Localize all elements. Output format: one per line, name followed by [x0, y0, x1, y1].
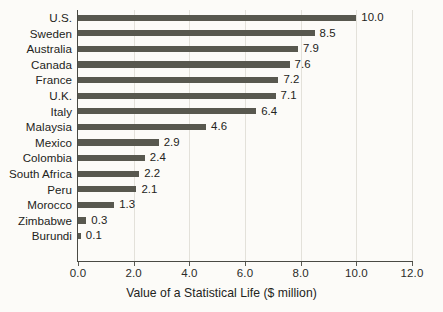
x-axis-title: Value of a Statistical Life ($ million): [0, 286, 443, 300]
x-tick-label: 10.0: [333, 267, 379, 279]
bar-value-label: 7.6: [295, 57, 311, 73]
bar-value-label: 2.9: [164, 135, 180, 151]
x-tick-label: 8.0: [278, 267, 324, 279]
bar: [78, 186, 136, 192]
chart-row: Italy6.4: [0, 104, 443, 120]
x-tick-label: 4.0: [166, 267, 212, 279]
bar: [78, 139, 159, 145]
chart-row: U.K.7.1: [0, 88, 443, 104]
bar-value-label: 7.1: [281, 88, 297, 104]
x-tick-mark: [412, 262, 413, 266]
chart-row: Burundi0.1: [0, 228, 443, 244]
bar-value-label: 6.4: [261, 104, 277, 120]
bar-value-label: 10.0: [361, 10, 383, 26]
x-tick-label: 0.0: [55, 267, 101, 279]
chart-row: Australia7.9: [0, 41, 443, 57]
category-label: Morocco: [0, 197, 72, 213]
x-tick-label: 2.0: [111, 267, 157, 279]
x-tick-label: 12.0: [389, 267, 435, 279]
category-label: Zimbabwe: [0, 213, 72, 229]
category-label: Burundi: [0, 228, 72, 244]
bar-value-label: 7.2: [283, 72, 299, 88]
bar-value-label: 7.9: [303, 41, 319, 57]
bar-chart-figure: U.S.10.0Sweden8.5Australia7.9Canada7.6Fr…: [0, 0, 443, 312]
x-tick-label: 6.0: [222, 267, 268, 279]
chart-row: Zimbabwe0.3: [0, 213, 443, 229]
bar: [78, 30, 315, 36]
category-label: Italy: [0, 104, 72, 120]
chart-row: France7.2: [0, 72, 443, 88]
bar: [78, 233, 81, 239]
category-label: Australia: [0, 41, 72, 57]
bar: [78, 202, 114, 208]
category-label: Canada: [0, 57, 72, 73]
chart-row: Morocco1.3: [0, 197, 443, 213]
category-label: Colombia: [0, 150, 72, 166]
category-label: South Africa: [0, 166, 72, 182]
bar: [78, 155, 145, 161]
x-tick-mark: [189, 262, 190, 266]
chart-row: Mexico2.9: [0, 135, 443, 151]
category-label: Sweden: [0, 26, 72, 42]
x-tick-mark: [134, 262, 135, 266]
category-label: France: [0, 72, 72, 88]
bar: [78, 15, 356, 21]
category-label: U.K.: [0, 88, 72, 104]
bar: [78, 171, 139, 177]
category-label: Peru: [0, 182, 72, 198]
bar: [78, 93, 276, 99]
x-tick-mark: [78, 262, 79, 266]
bar-value-label: 2.1: [141, 182, 157, 198]
x-tick-mark: [245, 262, 246, 266]
bar: [78, 108, 256, 114]
bar-value-label: 4.6: [211, 119, 227, 135]
bar-value-label: 8.5: [320, 26, 336, 42]
bar: [78, 61, 290, 67]
bar-value-label: 0.3: [91, 213, 107, 229]
chart-row: Canada7.6: [0, 57, 443, 73]
chart-row: Peru2.1: [0, 182, 443, 198]
category-label: Mexico: [0, 135, 72, 151]
x-tick-mark: [356, 262, 357, 266]
bar-value-label: 2.2: [144, 166, 160, 182]
bar: [78, 217, 86, 223]
category-label: U.S.: [0, 10, 72, 26]
bar-value-label: 1.3: [119, 197, 135, 213]
x-tick-mark: [301, 262, 302, 266]
bar-value-label: 2.4: [150, 150, 166, 166]
chart-row: Malaysia4.6: [0, 119, 443, 135]
chart-row: U.S.10.0: [0, 10, 443, 26]
bar: [78, 77, 278, 83]
chart-row: South Africa2.2: [0, 166, 443, 182]
bar: [78, 46, 298, 52]
chart-row: Sweden8.5: [0, 26, 443, 42]
category-label: Malaysia: [0, 119, 72, 135]
bar: [78, 124, 206, 130]
chart-row: Colombia2.4: [0, 150, 443, 166]
bar-value-label: 0.1: [86, 228, 102, 244]
